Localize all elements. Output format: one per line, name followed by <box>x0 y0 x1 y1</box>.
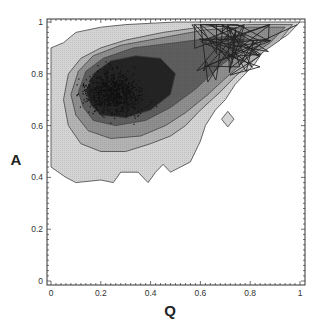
plot-area <box>51 22 300 183</box>
y-tick-label: 0 <box>38 276 43 286</box>
y-tick-label: 0.8 <box>31 69 43 79</box>
contour-island <box>222 111 234 127</box>
y-tick-label: 1 <box>38 17 43 27</box>
y-axis-title: A <box>11 151 22 168</box>
y-tick-label: 0.6 <box>31 121 43 131</box>
y-tick-label: 0.2 <box>31 224 43 234</box>
x-axis-title: Q <box>164 302 176 319</box>
y-tick-labels: 00.20.40.60.81 <box>31 17 43 286</box>
x-tick-label: 0.6 <box>194 288 206 298</box>
x-tick-label: 0.2 <box>95 288 107 298</box>
x-tick-labels: 00.20.40.60.81 <box>49 288 303 298</box>
contour-chart: 00.20.40.60.81 00.20.40.60.81 Q A <box>0 0 322 329</box>
x-tick-label: 1 <box>298 288 303 298</box>
y-tick-label: 0.4 <box>31 172 43 182</box>
x-tick-label: 0 <box>49 288 54 298</box>
x-tick-label: 0.8 <box>244 288 256 298</box>
x-tick-label: 0.4 <box>145 288 157 298</box>
